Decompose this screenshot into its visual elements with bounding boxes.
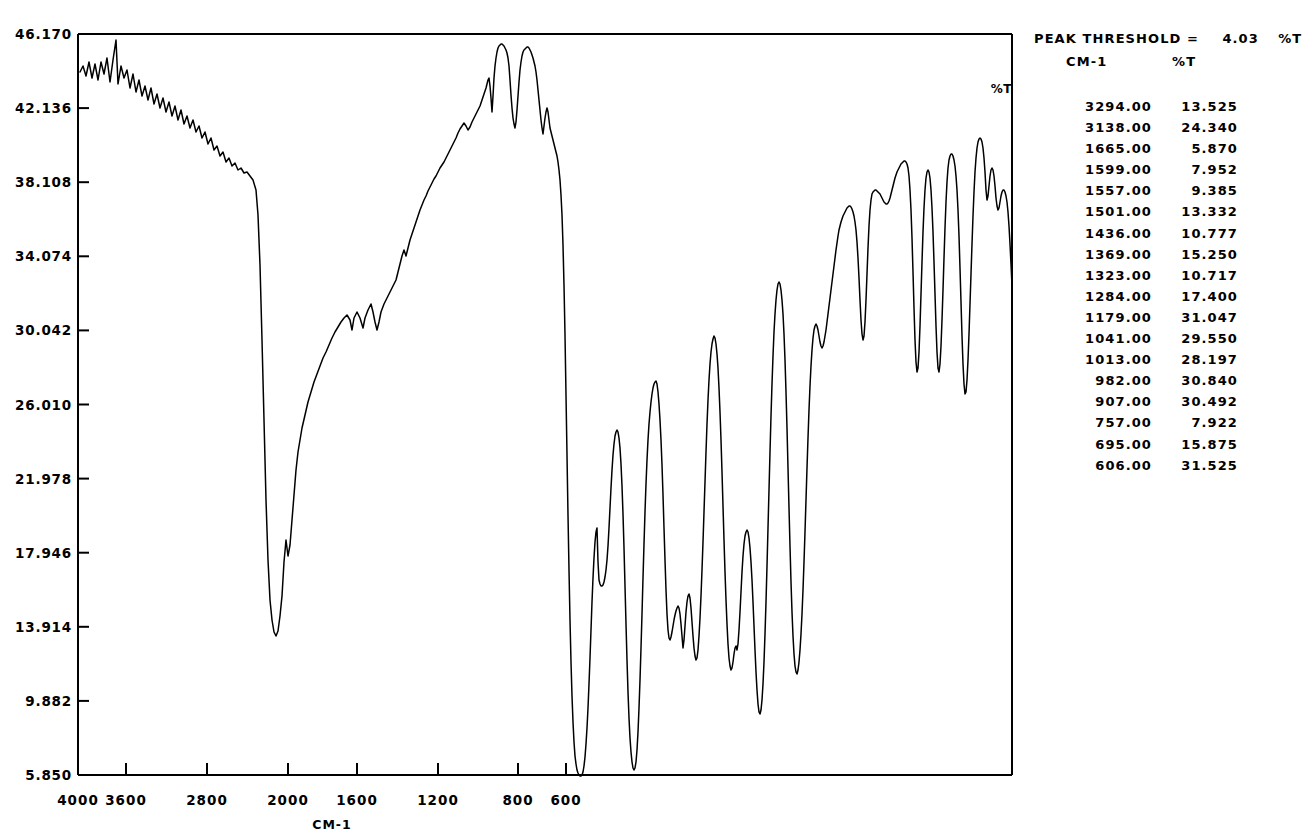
peak-wavenumber: 695.00 [1066,437,1152,452]
y-tick-label: 5.850 [25,767,72,783]
peak-wavenumber: 1323.00 [1066,268,1152,283]
x-tick-label: 1600 [336,792,378,808]
peak-transmittance: 7.952 [1164,162,1238,177]
spectrum-svg [0,0,1020,832]
x-tick-label: 600 [550,792,581,808]
peak-table-row: 757.007.922 [1066,415,1266,436]
peak-table-row: 1501.0013.332 [1066,204,1266,225]
peak-table-row: 1557.009.385 [1066,183,1266,204]
y-axis-labels: 46.17042.13638.10834.07430.04226.01021.9… [0,0,78,832]
peak-wavenumber: 907.00 [1066,394,1152,409]
peak-wavenumber: 1501.00 [1066,204,1152,219]
peak-wavenumber: 1665.00 [1066,141,1152,156]
spectrum-plot: 46.17042.13638.10834.07430.04226.01021.9… [0,0,1020,832]
peak-threshold-line: PEAK THRESHOLD = 4.03 %T [1034,31,1302,46]
peak-threshold-unit: %T [1278,31,1302,46]
peak-table-row: 1599.007.952 [1066,162,1266,183]
peak-wavenumber: 1369.00 [1066,247,1152,262]
peak-wavenumber: 1179.00 [1066,310,1152,325]
peak-table-body: 3294.0013.5253138.0024.3401665.005.87015… [1066,99,1266,479]
peak-table-row: 1436.0010.777 [1066,226,1266,247]
peak-transmittance: 10.777 [1164,226,1238,241]
y-tick-label: 30.042 [15,322,72,338]
y-axis-unit-label: %T [991,82,1012,96]
peak-wavenumber: 3294.00 [1066,99,1152,114]
peak-wavenumber: 606.00 [1066,458,1152,473]
peak-table-row: 3138.0024.340 [1066,120,1266,141]
peak-transmittance: 7.922 [1164,415,1238,430]
peak-transmittance: 31.525 [1164,458,1238,473]
peak-transmittance: 30.840 [1164,373,1238,388]
peak-wavenumber: 3138.00 [1066,120,1152,135]
peak-table-header-transmittance: %T [1172,54,1196,69]
x-tick-label: 800 [502,792,533,808]
peak-transmittance: 29.550 [1164,331,1238,346]
peak-wavenumber: 1557.00 [1066,183,1152,198]
peak-transmittance: 28.197 [1164,352,1238,367]
spectrum-trace [80,40,1012,776]
peak-table-row: 1041.0029.550 [1066,331,1266,352]
axis-frame [78,34,1012,775]
y-tick-label: 9.882 [25,693,72,709]
peak-table-row: 3294.0013.525 [1066,99,1266,120]
peak-transmittance: 5.870 [1164,141,1238,156]
y-axis-ticks [78,108,89,701]
peak-wavenumber: 1599.00 [1066,162,1152,177]
peak-wavenumber: 1436.00 [1066,226,1152,241]
peak-transmittance: 17.400 [1164,289,1238,304]
peak-transmittance: 15.875 [1164,437,1238,452]
peak-table-row: 1284.0017.400 [1066,289,1266,310]
peak-transmittance: 13.332 [1164,204,1238,219]
peak-table-row: 1013.0028.197 [1066,352,1266,373]
peak-table-panel: PEAK THRESHOLD = 4.03 %T CM-1 %T 3294.00… [1018,0,1283,832]
peak-transmittance: 24.340 [1164,120,1238,135]
x-tick-label: 2000 [267,792,309,808]
peak-threshold-label: PEAK THRESHOLD = [1034,31,1199,46]
peak-transmittance: 31.047 [1164,310,1238,325]
x-tick-label: 2800 [186,792,228,808]
y-tick-label: 21.978 [15,471,72,487]
x-tick-label: 4000 [57,792,99,808]
y-tick-label: 34.074 [15,248,72,264]
y-tick-label: 46.170 [15,26,72,42]
x-tick-label: 1200 [417,792,459,808]
peak-table-row: 907.0030.492 [1066,394,1266,415]
y-tick-label: 17.946 [15,545,72,561]
peak-wavenumber: 757.00 [1066,415,1152,430]
peak-wavenumber: 1284.00 [1066,289,1152,304]
y-tick-label: 26.010 [15,397,72,413]
peak-transmittance: 9.385 [1164,183,1238,198]
x-axis-title: CM-1 [312,817,352,832]
peak-table-row: 695.0015.875 [1066,437,1266,458]
peak-wavenumber: 1013.00 [1066,352,1152,367]
peak-table-row: 982.0030.840 [1066,373,1266,394]
y-tick-label: 13.914 [15,619,72,635]
peak-wavenumber: 982.00 [1066,373,1152,388]
x-tick-label: 3600 [105,792,147,808]
peak-wavenumber: 1041.00 [1066,331,1152,346]
y-tick-label: 38.108 [15,174,72,190]
peak-table-row: 606.0031.525 [1066,458,1266,479]
peak-table-row: 1665.005.870 [1066,141,1266,162]
peak-table-header-wavenumber: CM-1 [1066,54,1107,69]
peak-transmittance: 10.717 [1164,268,1238,283]
x-axis-ticks [126,763,566,775]
peak-transmittance: 15.250 [1164,247,1238,262]
peak-table-row: 1369.0015.250 [1066,247,1266,268]
peak-transmittance: 30.492 [1164,394,1238,409]
peak-transmittance: 13.525 [1164,99,1238,114]
y-tick-label: 42.136 [15,100,72,116]
peak-threshold-value: 4.03 [1222,31,1258,46]
peak-table-row: 1179.0031.047 [1066,310,1266,331]
peak-table-row: 1323.0010.717 [1066,268,1266,289]
